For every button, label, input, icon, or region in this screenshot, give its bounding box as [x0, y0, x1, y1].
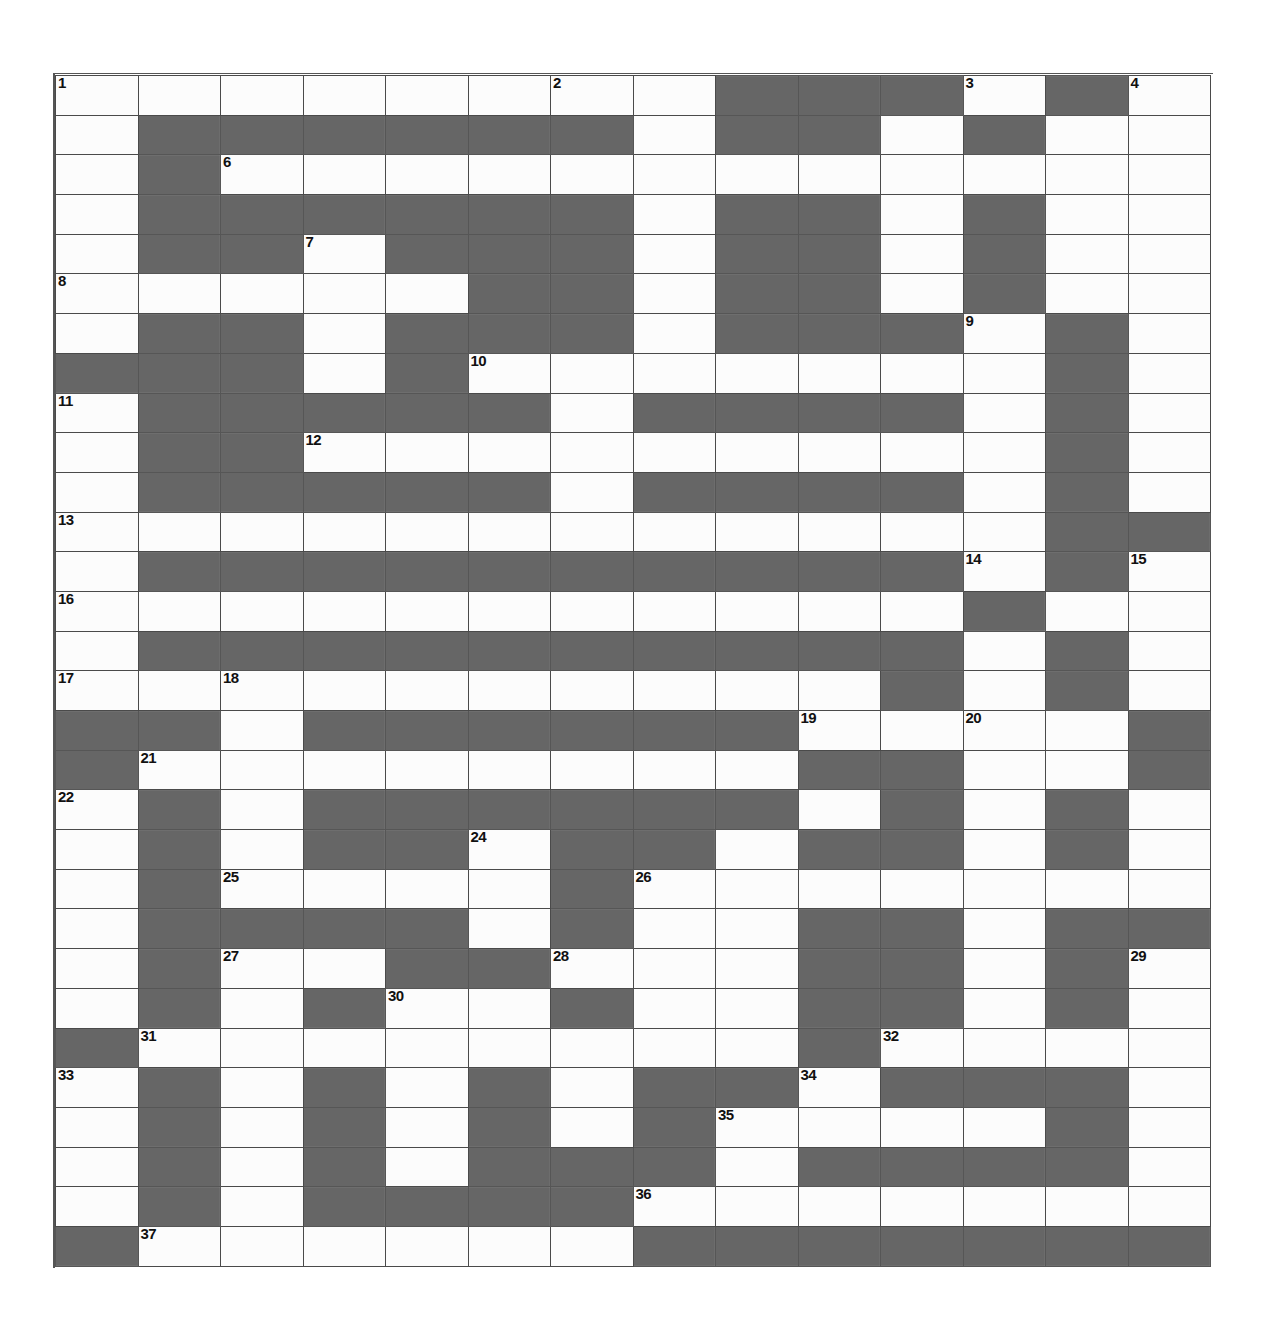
crossword-letter-cell[interactable]: 7: [303, 234, 386, 274]
crossword-letter-cell[interactable]: [633, 115, 716, 155]
crossword-letter-cell[interactable]: [56, 631, 139, 671]
crossword-letter-cell[interactable]: [56, 234, 139, 274]
crossword-letter-cell[interactable]: [468, 909, 551, 949]
crossword-letter-cell[interactable]: 29: [1128, 949, 1211, 989]
crossword-letter-cell[interactable]: [881, 234, 964, 274]
crossword-letter-cell[interactable]: [386, 155, 469, 195]
crossword-letter-cell[interactable]: [303, 353, 386, 393]
crossword-letter-cell[interactable]: [716, 949, 799, 989]
crossword-letter-cell[interactable]: [303, 512, 386, 552]
crossword-letter-cell[interactable]: [303, 949, 386, 989]
crossword-letter-cell[interactable]: [963, 1187, 1046, 1227]
crossword-letter-cell[interactable]: [716, 988, 799, 1028]
crossword-letter-cell[interactable]: [798, 790, 881, 830]
crossword-letter-cell[interactable]: [963, 472, 1046, 512]
crossword-letter-cell[interactable]: 21: [138, 750, 221, 790]
crossword-letter-cell[interactable]: 13: [56, 512, 139, 552]
crossword-letter-cell[interactable]: [1128, 830, 1211, 870]
crossword-letter-cell[interactable]: [1128, 1147, 1211, 1187]
crossword-letter-cell[interactable]: 19: [798, 711, 881, 751]
crossword-letter-cell[interactable]: [303, 671, 386, 711]
crossword-letter-cell[interactable]: [221, 1107, 304, 1147]
crossword-letter-cell[interactable]: [551, 393, 634, 433]
crossword-letter-cell[interactable]: [798, 591, 881, 631]
crossword-letter-cell[interactable]: 12: [303, 433, 386, 473]
crossword-letter-cell[interactable]: 25: [221, 869, 304, 909]
crossword-letter-cell[interactable]: 37: [138, 1226, 221, 1266]
crossword-letter-cell[interactable]: 8: [56, 274, 139, 314]
crossword-letter-cell[interactable]: [1046, 155, 1129, 195]
crossword-letter-cell[interactable]: [633, 1028, 716, 1068]
crossword-letter-cell[interactable]: 20: [963, 711, 1046, 751]
crossword-letter-cell[interactable]: [386, 1028, 469, 1068]
crossword-letter-cell[interactable]: [551, 353, 634, 393]
crossword-letter-cell[interactable]: [1046, 1028, 1129, 1068]
crossword-letter-cell[interactable]: [1128, 472, 1211, 512]
crossword-letter-cell[interactable]: [56, 433, 139, 473]
crossword-letter-cell[interactable]: [551, 1107, 634, 1147]
crossword-letter-cell[interactable]: [1046, 711, 1129, 751]
crossword-letter-cell[interactable]: [633, 314, 716, 354]
crossword-letter-cell[interactable]: [881, 512, 964, 552]
crossword-letter-cell[interactable]: [221, 988, 304, 1028]
crossword-letter-cell[interactable]: [716, 830, 799, 870]
crossword-letter-cell[interactable]: [468, 433, 551, 473]
crossword-letter-cell[interactable]: [138, 671, 221, 711]
crossword-letter-cell[interactable]: 33: [56, 1068, 139, 1108]
crossword-letter-cell[interactable]: [633, 155, 716, 195]
crossword-letter-cell[interactable]: 22: [56, 790, 139, 830]
crossword-letter-cell[interactable]: [798, 869, 881, 909]
crossword-letter-cell[interactable]: 16: [56, 591, 139, 631]
crossword-letter-cell[interactable]: [303, 314, 386, 354]
crossword-letter-cell[interactable]: [1128, 671, 1211, 711]
crossword-letter-cell[interactable]: [386, 591, 469, 631]
crossword-letter-cell[interactable]: [716, 155, 799, 195]
crossword-letter-cell[interactable]: [386, 869, 469, 909]
crossword-letter-cell[interactable]: [56, 552, 139, 592]
crossword-letter-cell[interactable]: 14: [963, 552, 1046, 592]
crossword-letter-cell[interactable]: [138, 274, 221, 314]
crossword-letter-cell[interactable]: [1128, 1028, 1211, 1068]
crossword-letter-cell[interactable]: [881, 353, 964, 393]
crossword-letter-cell[interactable]: [468, 512, 551, 552]
crossword-letter-cell[interactable]: [56, 472, 139, 512]
crossword-letter-cell[interactable]: [963, 353, 1046, 393]
crossword-letter-cell[interactable]: [881, 869, 964, 909]
crossword-letter-cell[interactable]: [551, 671, 634, 711]
crossword-letter-cell[interactable]: [468, 750, 551, 790]
crossword-letter-cell[interactable]: [221, 1147, 304, 1187]
crossword-letter-cell[interactable]: [963, 909, 1046, 949]
crossword-letter-cell[interactable]: [633, 274, 716, 314]
crossword-letter-cell[interactable]: [1046, 115, 1129, 155]
crossword-letter-cell[interactable]: [386, 512, 469, 552]
crossword-letter-cell[interactable]: [1128, 155, 1211, 195]
crossword-letter-cell[interactable]: [716, 750, 799, 790]
crossword-letter-cell[interactable]: [303, 155, 386, 195]
crossword-letter-cell[interactable]: [633, 234, 716, 274]
crossword-letter-cell[interactable]: [963, 830, 1046, 870]
crossword-letter-cell[interactable]: [633, 750, 716, 790]
crossword-letter-cell[interactable]: [881, 195, 964, 235]
crossword-letter-cell[interactable]: [1128, 274, 1211, 314]
crossword-letter-cell[interactable]: [1128, 591, 1211, 631]
crossword-letter-cell[interactable]: [56, 1187, 139, 1227]
crossword-letter-cell[interactable]: [1046, 750, 1129, 790]
crossword-letter-cell[interactable]: 32: [881, 1028, 964, 1068]
crossword-letter-cell[interactable]: [386, 433, 469, 473]
crossword-letter-cell[interactable]: 35: [716, 1107, 799, 1147]
crossword-letter-cell[interactable]: [963, 988, 1046, 1028]
crossword-letter-cell[interactable]: 4: [1128, 76, 1211, 116]
crossword-letter-cell[interactable]: 27: [221, 949, 304, 989]
crossword-letter-cell[interactable]: [716, 433, 799, 473]
crossword-letter-cell[interactable]: [468, 1028, 551, 1068]
crossword-letter-cell[interactable]: 36: [633, 1187, 716, 1227]
crossword-letter-cell[interactable]: [551, 433, 634, 473]
crossword-letter-cell[interactable]: [963, 1107, 1046, 1147]
crossword-letter-cell[interactable]: [1046, 195, 1129, 235]
crossword-letter-cell[interactable]: [881, 115, 964, 155]
crossword-letter-cell[interactable]: [963, 750, 1046, 790]
crossword-letter-cell[interactable]: [798, 1107, 881, 1147]
crossword-letter-cell[interactable]: [963, 512, 1046, 552]
crossword-letter-cell[interactable]: [551, 591, 634, 631]
crossword-letter-cell[interactable]: [386, 76, 469, 116]
